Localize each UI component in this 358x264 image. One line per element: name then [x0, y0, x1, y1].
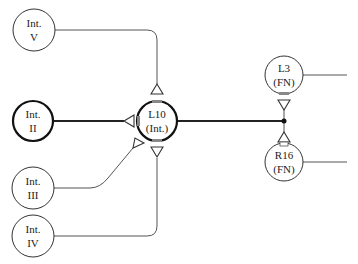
node-int-iv: Int. IV [12, 215, 54, 257]
node-int-iv-line2: IV [27, 237, 39, 249]
node-l10-line2: (Int.) [146, 122, 169, 135]
wire-int-v-to-hub [55, 30, 157, 84]
circuit-diagram: Int. V Int. II Int. III Int. IV L10 (Int… [0, 0, 358, 264]
synapse-triangle-to-r16 [278, 132, 290, 142]
synapse-triangle-to-l3 [278, 100, 290, 110]
wire-int-iv-to-hub [54, 158, 157, 236]
node-int-iv-line1: Int. [26, 223, 41, 235]
node-int-v-line1: Int. [27, 17, 42, 29]
node-l3-line1: L3 [278, 62, 291, 74]
node-int-iii-line1: Int. [26, 175, 41, 187]
node-int-ii-line2: II [29, 122, 37, 134]
wire-int-iii-to-hub [54, 148, 133, 188]
node-int-ii-line1: Int. [26, 108, 41, 120]
node-r16: R16 (FN) [265, 142, 303, 181]
node-l3: L3 (FN) [265, 56, 303, 95]
node-l10-line1: L10 [148, 108, 166, 120]
node-r16-line2: (FN) [273, 163, 295, 176]
node-l10-hub: L10 (Int.) [137, 100, 177, 142]
node-int-iii-line2: III [28, 189, 39, 201]
synapse-triangle-bottom [151, 147, 163, 157]
node-int-v-line2: V [30, 31, 38, 43]
synapse-triangle-top [151, 84, 163, 94]
node-int-v: Int. V [13, 9, 55, 51]
synapse-triangle-lower-left [133, 138, 144, 148]
node-l3-line2: (FN) [273, 76, 295, 89]
synapse-triangle-left [124, 115, 134, 127]
node-int-ii: Int. II [13, 101, 53, 141]
node-r16-line1: R16 [275, 149, 294, 161]
junction-dot [282, 119, 287, 124]
node-int-iii: Int. III [12, 167, 54, 209]
